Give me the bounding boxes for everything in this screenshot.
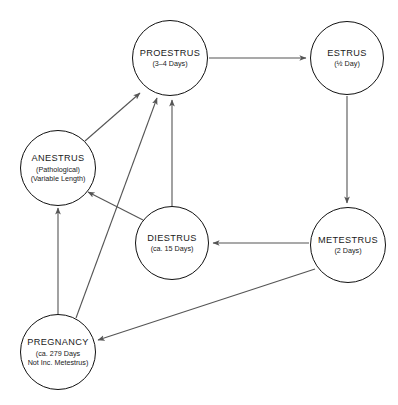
node-pregnancy-title: PREGNANCY [27,337,88,347]
node-metestrus-duration: (2 Days) [334,247,361,255]
edge-metestrus-to-pregnancy [98,269,315,340]
node-metestrus[interactable]: METESTRUS (2 Days) [310,207,386,283]
node-proestrus-duration: (3–4 Days) [152,60,187,68]
node-diestrus-duration: (ca. 15 Days) [151,245,194,253]
node-proestrus[interactable]: PROESTRUS (3–4 Days) [132,20,208,96]
node-estrus-title: ESTRUS [327,48,366,58]
edge-diestrus-to-anestrus [88,192,143,220]
edge-anestrus-to-proestrus [85,93,140,141]
node-proestrus-title: PROESTRUS [140,48,200,58]
node-anestrus-duration: (Variable Length) [31,175,86,183]
node-anestrus-title: ANESTRUS [32,153,85,163]
node-diestrus[interactable]: DIESTRUS (ca. 15 Days) [135,206,209,280]
node-pregnancy-duration: (ca. 279 Days [36,350,80,358]
node-estrus-duration: (½ Day) [334,60,360,68]
node-metestrus-title: METESTRUS [318,235,378,245]
node-anestrus-qualifier: (Pathological) [36,166,80,174]
edge-pregnancy-to-proestrus [76,98,157,318]
node-pregnancy[interactable]: PREGNANCY (ca. 279 Days Not Inc. Metestr… [20,314,96,390]
estrous-cycle-diagram: PROESTRUS (3–4 Days) ESTRUS (½ Day) ANES… [0,0,398,405]
node-estrus[interactable]: ESTRUS (½ Day) [310,21,384,95]
node-diestrus-title: DIESTRUS [147,233,196,243]
node-pregnancy-duration-note: Not Inc. Metestrus) [28,359,89,367]
node-anestrus[interactable]: ANESTRUS (Pathological) (Variable Length… [20,130,96,206]
